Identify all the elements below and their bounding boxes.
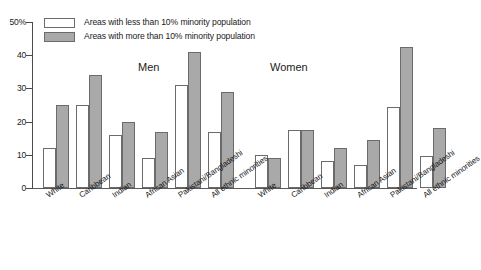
y-tick-mark [26,55,33,56]
y-tick-label: 20 [0,118,26,127]
y-tick-mark [26,22,33,23]
bar [387,107,400,188]
bar [142,158,155,188]
y-tick-label: 50% [0,18,26,27]
x-axis-line [32,188,417,189]
bar [433,128,446,188]
bar [43,148,56,188]
bar [334,148,347,188]
bar [221,92,234,188]
y-tick-mark [26,122,33,123]
y-tick-label: 10 [0,151,26,160]
bar [420,156,433,188]
bar [354,165,367,188]
bar [268,158,281,188]
bar [89,75,102,188]
y-tick-label: 40 [0,51,26,60]
bar [155,132,168,188]
bar [56,105,69,188]
y-tick-mark [26,188,33,189]
bars-layer [33,22,417,188]
bar [400,47,413,188]
y-tick-mark [26,88,33,89]
bar [109,135,122,188]
bar [321,161,334,188]
bar [122,122,135,188]
bar [76,105,89,188]
bar [175,85,188,188]
y-tick-label: 0 [0,184,26,193]
bar [255,155,268,188]
bar [208,132,221,188]
bar [301,130,314,188]
y-tick-mark [26,155,33,156]
bar [188,52,201,188]
bar [367,140,380,188]
bar [288,130,301,188]
y-tick-label: 30 [0,84,26,93]
